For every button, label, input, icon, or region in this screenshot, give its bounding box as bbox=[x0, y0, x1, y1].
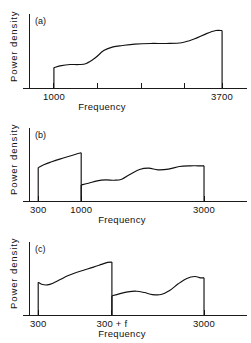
panel-c-ticks bbox=[38, 310, 204, 315]
x-tick-label: 3000 bbox=[193, 204, 215, 215]
panel-a: Power density (a) 10003700 Frequency bbox=[0, 0, 251, 115]
panel-a-spectrum-group bbox=[54, 30, 222, 88]
panel-c-x-axis-label: Frequency bbox=[98, 328, 146, 339]
panel-b-label: (b) bbox=[35, 130, 46, 140]
spectrum-curve bbox=[38, 153, 81, 168]
panel-c: Power density (c) 300300 + f3000 Frequen… bbox=[0, 229, 251, 343]
panel-a-plot: Power density (a) 10003700 Frequency bbox=[0, 0, 251, 115]
spectrum-curve bbox=[38, 262, 112, 285]
panel-a-y-axis-label: Power density bbox=[8, 11, 19, 82]
panel-b: Power density (b) 30010003000 Frequency bbox=[0, 115, 251, 229]
panel-c-y-axis-label: Power density bbox=[8, 238, 19, 309]
panel-b-plot: Power density (b) 30010003000 Frequency bbox=[0, 115, 251, 229]
x-tick-label: 300 bbox=[30, 318, 46, 329]
spectrum-curve bbox=[112, 276, 204, 295]
x-tick-label: 1000 bbox=[70, 204, 92, 215]
x-tick-label: 3700 bbox=[211, 91, 233, 102]
panel-c-spectrum-group bbox=[38, 262, 204, 315]
figure-power-density-spectra: Power density (a) 10003700 Frequency Pow… bbox=[0, 0, 251, 343]
panel-c-label: (c) bbox=[35, 244, 46, 254]
panel-a-x-axis-label: Frequency bbox=[78, 101, 126, 112]
x-tick-label: 1000 bbox=[43, 91, 65, 102]
panel-c-plot: Power density (c) 300300 + f3000 Frequen… bbox=[0, 229, 251, 343]
panel-a-label: (a) bbox=[35, 16, 46, 26]
x-tick-label: 300 bbox=[30, 204, 46, 215]
panel-a-tick-labels: 10003700 bbox=[43, 91, 233, 102]
spectrum-curve bbox=[54, 30, 222, 67]
panel-b-x-axis-label: Frequency bbox=[98, 214, 146, 225]
x-tick-label: 3000 bbox=[193, 318, 215, 329]
panel-b-y-axis-label: Power density bbox=[8, 124, 19, 195]
panel-a-ticks bbox=[54, 83, 222, 88]
panel-b-ticks bbox=[38, 196, 204, 201]
spectrum-curve bbox=[81, 166, 204, 185]
panel-b-spectrum-group bbox=[38, 153, 204, 201]
